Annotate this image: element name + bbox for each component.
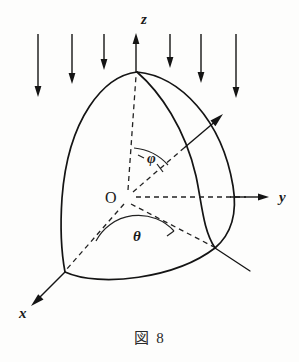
flow-arrow-4 bbox=[167, 34, 174, 68]
x-axis-label: x bbox=[18, 305, 27, 321]
flow-arrow-1 bbox=[35, 34, 42, 97]
flow-arrow-6 bbox=[233, 34, 240, 98]
figure-container: z y x O φ θ 図8 bbox=[0, 0, 299, 362]
caption-kanji: 図 bbox=[134, 326, 150, 347]
spherical-coordinates-diagram: z y x O φ θ bbox=[0, 0, 299, 362]
x-axis-hidden bbox=[66, 204, 124, 270]
theta-angle-label: θ bbox=[133, 228, 141, 244]
figure-caption: 図8 bbox=[0, 326, 299, 347]
origin-label: O bbox=[105, 189, 117, 206]
phi-leader bbox=[157, 164, 163, 172]
theta-leader bbox=[167, 231, 174, 236]
phi-tick bbox=[138, 155, 144, 158]
flow-arrow-3 bbox=[101, 34, 108, 70]
lower-right-edge bbox=[215, 248, 250, 271]
phi-angle-label: φ bbox=[147, 150, 156, 166]
solid-body-outline bbox=[61, 72, 234, 280]
caption-number: 8 bbox=[156, 330, 165, 346]
flow-arrow-5 bbox=[198, 34, 205, 83]
z-axis-hidden bbox=[128, 76, 136, 190]
flow-arrow-2 bbox=[69, 34, 76, 84]
z-axis-label: z bbox=[140, 11, 147, 27]
y-axis-label: y bbox=[277, 189, 286, 205]
y-axis bbox=[230, 194, 269, 201]
x-axis bbox=[31, 272, 65, 306]
z-axis bbox=[133, 33, 140, 72]
